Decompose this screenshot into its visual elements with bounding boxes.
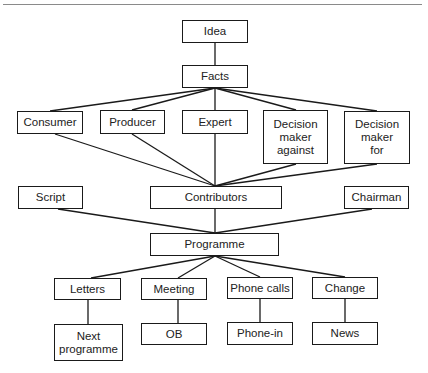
node-facts: Facts (182, 65, 248, 88)
node-contributors: Contributors (150, 186, 282, 209)
node-producer: Producer (100, 110, 165, 134)
node-decision-maker-against: Decision maker against (263, 110, 328, 164)
node-change: Change (312, 277, 378, 299)
node-label: Script (36, 191, 65, 204)
node-label: Meeting (154, 283, 195, 296)
node-label: Producer (109, 116, 156, 129)
node-label: Chairman (352, 191, 402, 204)
node-label: Consumer (23, 116, 76, 129)
node-news: News (312, 322, 378, 345)
node-label: Next programme (59, 330, 118, 356)
node-label: Phone calls (230, 282, 289, 295)
node-label: Expert (198, 116, 231, 129)
node-phone-calls: Phone calls (227, 277, 293, 299)
node-letters: Letters (54, 278, 121, 300)
node-label: Phone-in (237, 327, 283, 340)
node-idea: Idea (182, 20, 248, 43)
node-label: Programme (184, 238, 244, 251)
node-label: Idea (204, 25, 226, 38)
node-label: Decision maker for (355, 118, 399, 157)
node-label: Letters (70, 283, 105, 296)
node-chairman: Chairman (344, 186, 409, 209)
node-next-programme: Next programme (54, 324, 123, 361)
node-label: News (331, 327, 360, 340)
node-ob: OB (141, 323, 207, 345)
node-programme: Programme (150, 233, 279, 256)
node-label: Facts (201, 70, 229, 83)
node-label: OB (166, 328, 183, 341)
node-label: Decision maker against (273, 118, 317, 157)
node-meeting: Meeting (141, 278, 207, 300)
node-label: Contributors (185, 191, 248, 204)
node-consumer: Consumer (17, 111, 83, 134)
node-expert: Expert (182, 110, 248, 134)
node-label: Change (325, 282, 365, 295)
node-script: Script (18, 186, 83, 209)
node-phone-in: Phone-in (227, 322, 293, 345)
node-decision-maker-for: Decision maker for (344, 111, 410, 164)
